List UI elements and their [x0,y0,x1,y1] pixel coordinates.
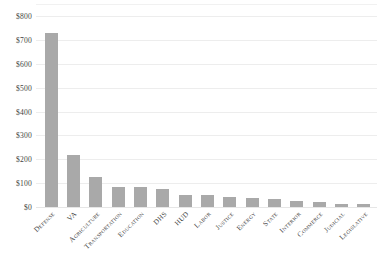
x-axis: DefenseVAAgricultureTransportationEducat… [36,207,377,264]
x-axis-tick-label: Energy [235,210,257,232]
y-axis-tick-label: $300 [16,131,32,140]
bar-slot [353,16,375,207]
x-axis-tick-label: State [262,210,280,228]
bar-slot [219,16,241,207]
bar-slot [263,16,285,207]
x-axis-tick-label: Labor [193,210,213,230]
bar[interactable] [67,155,80,207]
bar[interactable] [156,189,169,207]
bar[interactable] [134,187,147,207]
y-axis: $800$700$600$500$400$300$200$100$0 [0,16,32,207]
plot-area [36,16,377,207]
bar-slot [107,16,129,207]
y-axis-tick-label: $200 [16,155,32,164]
y-axis-tick-label: $800 [16,12,32,21]
y-axis-tick-label: $600 [16,59,32,68]
bar[interactable] [89,177,102,207]
x-axis-tick-label: DHS [152,210,169,227]
y-axis-tick-label: $500 [16,83,32,92]
bar-slot [308,16,330,207]
bar-slot [85,16,107,207]
bar[interactable] [268,199,281,207]
y-axis-tick-label: $100 [16,179,32,188]
bar[interactable] [45,33,58,207]
x-axis-tick-label: HUD [173,210,190,227]
bar-slot [40,16,62,207]
bar-slot [62,16,84,207]
bar-slot [286,16,308,207]
bar[interactable] [179,195,192,207]
y-axis-tick-label: $0 [24,203,32,212]
bar-slot [174,16,196,207]
bar-slot [196,16,218,207]
x-axis-tick-label: VA [66,210,79,223]
bar[interactable] [201,195,214,207]
bar[interactable] [246,198,259,207]
y-axis-tick-label: $700 [16,35,32,44]
bar-slot [152,16,174,207]
bar[interactable] [112,187,125,207]
y-axis-tick-label: $400 [16,107,32,116]
x-axis-tick-label: Defense [33,210,57,234]
x-axis-tick-label: Justice [214,210,236,232]
bar[interactable] [223,197,236,207]
bar-series [36,16,377,207]
top-gridline [36,4,377,5]
bar-slot [330,16,352,207]
bar-slot [129,16,151,207]
bar-chart: $800$700$600$500$400$300$200$100$0 Defen… [0,0,381,264]
bar-slot [241,16,263,207]
